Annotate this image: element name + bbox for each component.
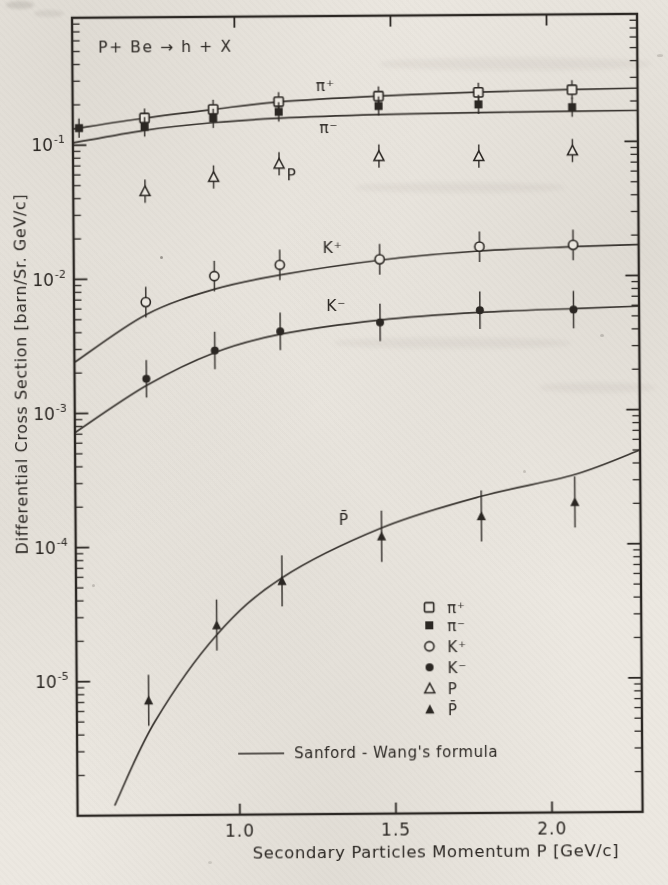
legend-triangle-filled-symbol bbox=[425, 704, 434, 713]
pi-minus-marker bbox=[75, 124, 83, 132]
plot-border bbox=[72, 14, 643, 816]
antiproton-curve-label: P̄ bbox=[339, 510, 349, 529]
antiproton-marker bbox=[477, 511, 486, 520]
differential-cross-section-chart: 10-110-210-310-410-51.01.52.0Secondary P… bbox=[0, 0, 668, 885]
legend-formula-label: Sanford - Wang's formula bbox=[294, 743, 498, 762]
pi-minus-marker bbox=[474, 100, 482, 108]
k-plus-marker bbox=[141, 298, 150, 307]
x-tick-label: 2.0 bbox=[537, 818, 567, 838]
k-minus-marker bbox=[276, 327, 284, 335]
k-plus-curve-label: K⁺ bbox=[323, 239, 343, 257]
reaction-annotation: P+ Be → h + X bbox=[98, 38, 232, 57]
proton-marker bbox=[209, 172, 219, 182]
proton-marker bbox=[567, 145, 577, 155]
pi-minus-marker bbox=[375, 102, 383, 110]
pi-plus-formula-curve bbox=[73, 88, 638, 129]
k-minus-curve-label: K⁻ bbox=[326, 297, 346, 315]
legend-label: π⁺ bbox=[447, 599, 466, 617]
legend-label: P̄ bbox=[448, 700, 458, 719]
k-plus-formula-curve bbox=[74, 244, 640, 362]
pi-minus-marker bbox=[141, 123, 149, 131]
k-minus-marker bbox=[569, 306, 577, 314]
legend-label: K⁺ bbox=[447, 638, 466, 656]
pi-minus-formula-curve bbox=[73, 110, 638, 143]
legend-square-open-symbol bbox=[425, 603, 434, 612]
scan-paper: 10-110-210-310-410-51.01.52.0Secondary P… bbox=[0, 0, 668, 885]
legend-label: K⁻ bbox=[448, 659, 467, 677]
legend-label: π⁻ bbox=[447, 617, 466, 635]
antiproton-marker bbox=[212, 620, 221, 629]
pi-minus-marker bbox=[209, 114, 217, 122]
legend-label: P bbox=[448, 680, 458, 698]
k-plus-marker bbox=[568, 240, 577, 249]
antiproton-marker bbox=[377, 531, 386, 540]
antiproton-marker bbox=[144, 695, 153, 704]
y-axis-label: Differential Cross Section [barn/Sr. GeV… bbox=[10, 194, 32, 555]
proton-marker bbox=[274, 159, 284, 169]
k-minus-formula-curve bbox=[74, 306, 640, 432]
k-minus-marker bbox=[142, 375, 150, 383]
proton-curve-label: P bbox=[287, 166, 297, 184]
k-plus-marker bbox=[475, 242, 484, 251]
x-tick-label: 1.5 bbox=[381, 819, 411, 839]
proton-marker bbox=[374, 151, 384, 161]
proton-marker bbox=[474, 151, 484, 161]
x-axis-label: Secondary Particles Momentum P [GeV/c] bbox=[253, 841, 620, 863]
proton-marker bbox=[140, 186, 150, 196]
k-plus-marker bbox=[375, 255, 384, 264]
y-tick-label: 10-2 bbox=[32, 267, 66, 289]
y-tick-label: 10-4 bbox=[34, 536, 68, 558]
pi-minus-marker bbox=[275, 108, 283, 116]
k-plus-marker bbox=[275, 260, 284, 269]
legend-triangle-open-symbol bbox=[425, 683, 435, 693]
pi-plus-marker bbox=[567, 85, 576, 94]
x-tick-label: 1.0 bbox=[225, 821, 255, 841]
legend-square-filled-symbol bbox=[425, 621, 433, 629]
antiproton-marker bbox=[570, 497, 579, 506]
pi-plus-curve-label: π⁺ bbox=[316, 77, 335, 95]
k-minus-marker bbox=[476, 306, 484, 314]
y-tick-label: 10-1 bbox=[31, 133, 65, 155]
legend-circle-filled-symbol bbox=[426, 663, 434, 671]
pi-minus-marker bbox=[568, 103, 576, 111]
y-tick-label: 10-3 bbox=[33, 402, 67, 424]
k-minus-marker bbox=[376, 318, 384, 326]
pi-minus-curve-label: π⁻ bbox=[319, 119, 338, 137]
y-tick-label: 10-5 bbox=[35, 670, 69, 692]
k-minus-marker bbox=[211, 346, 219, 354]
k-plus-marker bbox=[210, 271, 219, 280]
legend-circle-open-symbol bbox=[425, 642, 434, 651]
